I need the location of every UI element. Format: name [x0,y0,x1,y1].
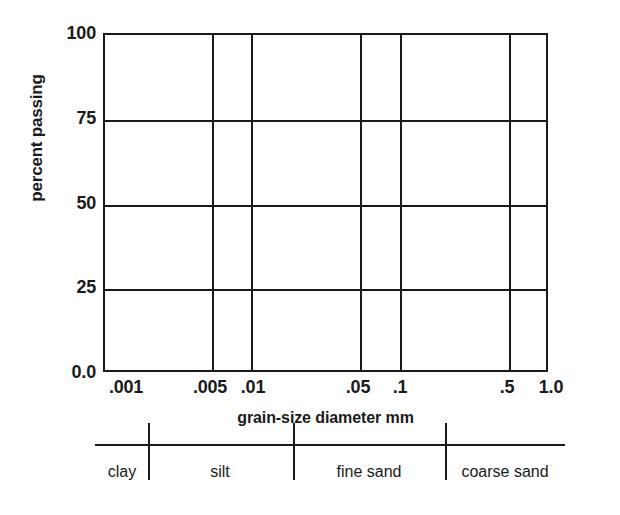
gridline-vertical-0.005 [212,35,214,370]
gridline-vertical-0.5 [509,35,511,370]
x-tick-0.001: .001 [86,378,166,396]
gridline-vertical-0.01 [251,35,253,370]
x-tick-1.0: 1.0 [511,378,591,396]
plot-area [103,33,548,372]
x-tick-0.01: .01 [213,378,293,396]
gridline-horizontal-25 [105,289,546,291]
gridline-horizontal-75 [105,120,546,122]
gridline-vertical-0.1 [400,35,402,370]
gridline-vertical-0.05 [360,35,362,370]
grain-size-distribution-figure: 100 75 50 25 0.0 percent passing .001 .0… [0,0,620,515]
classification-rule [95,444,565,446]
x-tick-0.1: .1 [360,378,440,396]
gridline-horizontal-50 [105,205,546,207]
classification-label-silt: silt [140,463,300,481]
classification-label-coarse-sand: coarse sand [425,463,585,481]
y-tick-25: 25 [36,278,96,296]
x-axis-title: grain-size diameter mm [103,409,548,427]
y-axis-title: percent passing [27,38,47,238]
